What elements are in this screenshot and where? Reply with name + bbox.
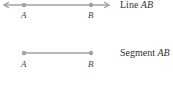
line-point-b-label: B <box>88 10 94 20</box>
segment-ab <box>22 51 93 55</box>
segment-caption-name: AB <box>158 47 170 58</box>
line-caption: Line AB <box>120 0 153 10</box>
segment-point-a-dot <box>22 51 26 55</box>
segment-point-a-label: A <box>21 59 27 69</box>
segment-point-b-label: B <box>88 59 94 69</box>
segment-caption-prefix: Segment <box>120 47 158 58</box>
segment-point-b-dot <box>89 51 93 55</box>
line-ab <box>4 2 109 8</box>
segment-caption: Segment AB <box>120 47 170 58</box>
point-b-dot <box>89 3 93 7</box>
line-caption-prefix: Line <box>120 0 141 10</box>
line-caption-name: AB <box>141 0 153 10</box>
line-point-a-label: A <box>21 10 27 20</box>
point-a-dot <box>22 3 26 7</box>
